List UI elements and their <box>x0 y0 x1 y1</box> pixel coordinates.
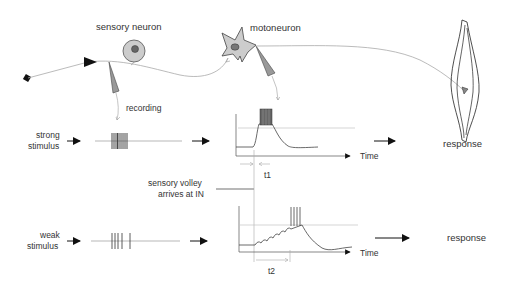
recording-label: recording <box>126 103 162 113</box>
response-top-label: response <box>443 138 482 149</box>
sensory-neuron-nucleus-icon <box>132 46 139 53</box>
sensory-recording-electrode-icon <box>109 62 119 93</box>
strong-stimulus-label-line2: stimulus <box>28 141 59 151</box>
motoneuron-recording-electrode-icon <box>256 46 275 76</box>
sensory-axon <box>28 58 228 78</box>
t2-label: t2 <box>268 266 275 276</box>
strong-response-plot <box>236 109 355 156</box>
axon-direction-arrow-icon <box>84 57 97 67</box>
strong-stimulus-label-line1: strong <box>36 130 60 140</box>
motoneuron-nucleus-icon <box>231 44 239 50</box>
weak-stimulus-label-line2: stimulus <box>27 241 58 251</box>
motor-axon <box>256 46 463 90</box>
motoneuron-label: motoneuron <box>250 22 301 33</box>
weak-stimulus-label-line1: weak <box>39 230 61 240</box>
muscle-icon <box>451 20 479 142</box>
stimulus-electrode-icon <box>23 74 31 82</box>
sensory-volley-label-line2: arrives at IN <box>158 189 204 199</box>
weak-response-plot <box>239 206 358 252</box>
time-axis-label-bottom: Time <box>360 248 379 258</box>
response-bottom-label: response <box>447 232 486 243</box>
sensory-volley-label-line1: sensory volley <box>148 178 203 188</box>
time-axis-label-top: Time <box>360 151 379 161</box>
sensory-neuron-label: sensory neuron <box>96 21 161 32</box>
t1-label: t1 <box>264 170 271 180</box>
reflex-diagram: sensory neuron recording motoneuron resp… <box>0 0 512 288</box>
